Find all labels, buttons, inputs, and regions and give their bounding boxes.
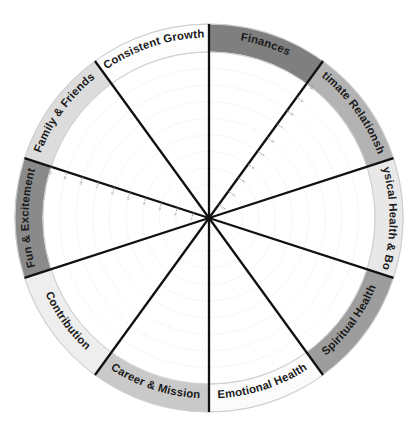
wheel-of-life-svg: 1234567891012345678910 FinancesIntimate … [0, 0, 417, 435]
wheel-of-life-chart: 1234567891012345678910 FinancesIntimate … [0, 0, 417, 435]
